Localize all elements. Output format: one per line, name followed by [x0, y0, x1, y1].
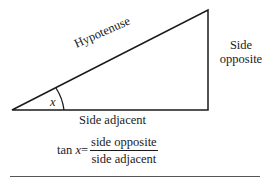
side-opposite-line1: Side: [218, 38, 264, 52]
side-opposite-line2: opposite: [218, 52, 264, 66]
angle-label: x: [50, 95, 56, 109]
formula-func: tan: [57, 143, 72, 157]
side-adjacent-label: Side adjacent: [79, 113, 146, 127]
formula-numerator: side opposite: [90, 135, 158, 151]
formula-lhs: tan x=: [57, 143, 88, 158]
tangent-formula: tan x= side opposite side adjacent: [57, 135, 158, 166]
side-opposite-label: Side opposite: [218, 38, 264, 66]
bottom-rule-divider: [10, 176, 260, 177]
formula-equals: =: [81, 143, 88, 157]
formula-denominator: side adjacent: [91, 151, 156, 166]
formula-fraction: side opposite side adjacent: [90, 135, 158, 166]
angle-arc: [56, 88, 64, 110]
